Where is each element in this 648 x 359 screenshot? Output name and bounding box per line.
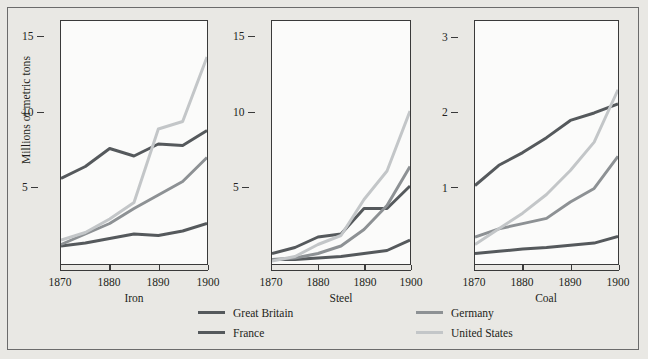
- x-tick-mark: [159, 265, 160, 270]
- panel-coal: 3 2 1 1870 1880 1890 1900 Coal: [426, 8, 640, 298]
- series-line: [61, 57, 207, 240]
- y-tick-label: 5: [22, 181, 28, 193]
- x-tick-steel-2: 1890: [345, 276, 385, 288]
- x-tick-mark: [411, 265, 412, 270]
- panel-title-coal: Coal: [486, 292, 606, 304]
- tick-dash: [451, 37, 458, 38]
- x-axis-steel: [271, 270, 411, 271]
- panel-title-steel: Steel: [281, 292, 401, 304]
- x-axis-coal: [474, 270, 619, 271]
- y-tick-coal-0: 3: [442, 31, 458, 43]
- legend-item-great-britain: Great Britain: [198, 306, 293, 319]
- legend-swatch-germany: [416, 311, 443, 315]
- panel-steel: 15 10 5 1870 1880 1890 1900 Steel: [223, 8, 426, 298]
- y-tick-coal-2: 1: [442, 182, 458, 194]
- y-tick-coal-1: 2: [442, 106, 458, 118]
- y-tick-label: 3: [442, 31, 448, 43]
- x-tick-mark: [318, 265, 319, 270]
- legend-label-united-states: United States: [451, 327, 513, 339]
- tick-dash: [37, 36, 44, 37]
- y-tick-label: 10: [233, 106, 245, 118]
- legend: Great Britain France Germany United Stat…: [8, 304, 638, 348]
- x-tick-mark: [271, 265, 272, 270]
- x-tick-mark: [60, 265, 61, 270]
- y-tick-label: 2: [442, 106, 448, 118]
- series-line: [475, 236, 618, 253]
- series-line: [272, 167, 410, 260]
- x-tick-coal-2: 1890: [550, 276, 590, 288]
- x-tick-iron-0: 1870: [40, 276, 80, 288]
- legend-label-great-britain: Great Britain: [233, 307, 293, 319]
- series-line: [475, 104, 618, 185]
- panels-container: Millions of metric tons 15 10 5 1870 188…: [8, 8, 638, 298]
- x-tick-mark: [571, 265, 572, 270]
- y-tick-iron-1: 10: [22, 106, 44, 118]
- x-tick-mark: [474, 265, 475, 270]
- x-tick-mark: [208, 265, 209, 270]
- legend-label-france: France: [233, 327, 264, 339]
- legend-item-france: France: [198, 326, 264, 339]
- series-line: [272, 111, 410, 261]
- x-tick-mark: [109, 265, 110, 270]
- x-axis-iron: [60, 270, 208, 271]
- y-tick-iron-0: 15: [22, 30, 44, 42]
- x-tick-steel-0: 1870: [251, 276, 291, 288]
- tick-dash: [242, 187, 249, 188]
- x-tick-mark: [522, 265, 523, 270]
- legend-swatch-france: [198, 331, 225, 335]
- y-tick-label: 10: [22, 106, 34, 118]
- y-tick-label: 1: [442, 182, 448, 194]
- plot-area-iron: [60, 20, 208, 265]
- lines-steel: [272, 21, 410, 264]
- panel-iron: 15 10 5 1870 1880 1890 1900 Iron: [8, 8, 223, 298]
- y-tick-label: 5: [233, 181, 239, 193]
- tick-dash: [451, 112, 458, 113]
- y-tick-steel-2: 5: [233, 181, 249, 193]
- x-tick-iron-2: 1890: [138, 276, 178, 288]
- lines-iron: [61, 21, 207, 264]
- x-tick-steel-3: 1900: [391, 276, 431, 288]
- x-tick-steel-1: 1880: [298, 276, 338, 288]
- tick-dash: [248, 36, 255, 37]
- series-line: [61, 130, 207, 178]
- y-tick-label: 15: [22, 30, 34, 42]
- legend-item-united-states: United States: [416, 326, 513, 339]
- tick-dash: [37, 112, 44, 113]
- x-tick-mark: [619, 265, 620, 270]
- x-tick-coal-1: 1880: [502, 276, 542, 288]
- y-tick-steel-1: 10: [233, 106, 255, 118]
- lines-coal: [475, 21, 618, 264]
- series-line: [272, 186, 410, 253]
- figure-frame: Millions of metric tons 15 10 5 1870 188…: [7, 7, 639, 350]
- x-tick-coal-3: 1900: [598, 276, 638, 288]
- y-tick-steel-0: 15: [233, 30, 255, 42]
- legend-swatch-united-states: [416, 331, 443, 335]
- x-tick-coal-0: 1870: [454, 276, 494, 288]
- tick-dash: [451, 187, 458, 188]
- legend-item-germany: Germany: [416, 306, 494, 319]
- tick-dash: [31, 187, 38, 188]
- plot-area-coal: [474, 20, 619, 265]
- legend-label-germany: Germany: [451, 307, 494, 319]
- tick-dash: [248, 112, 255, 113]
- panel-title-iron: Iron: [74, 292, 194, 304]
- x-tick-iron-3: 1900: [188, 276, 228, 288]
- y-tick-iron-2: 5: [22, 181, 38, 193]
- y-tick-label: 15: [233, 30, 245, 42]
- plot-area-steel: [271, 20, 411, 265]
- x-tick-mark: [364, 265, 365, 270]
- legend-swatch-great-britain: [198, 311, 225, 315]
- x-tick-iron-1: 1880: [89, 276, 129, 288]
